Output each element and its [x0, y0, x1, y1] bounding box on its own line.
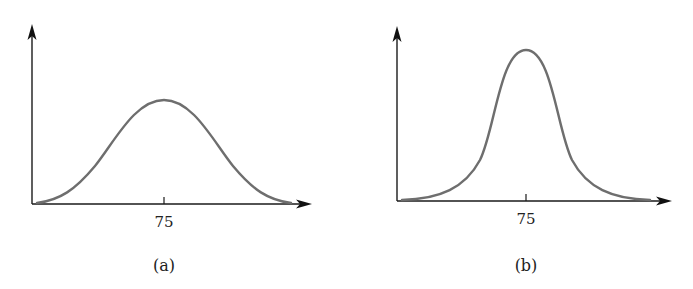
bell-curve-a [37, 100, 291, 203]
panel-b: 75 (b) [393, 26, 673, 275]
bell-curve-b [402, 50, 650, 200]
figure: 75 (a) 75 (b) [0, 0, 693, 289]
caption-b: (b) [515, 256, 538, 275]
panel-a: 75 (a) [28, 24, 313, 275]
tick-label-a: 75 [154, 213, 173, 231]
tick-label-b: 75 [516, 210, 535, 228]
caption-a: (a) [153, 256, 175, 275]
